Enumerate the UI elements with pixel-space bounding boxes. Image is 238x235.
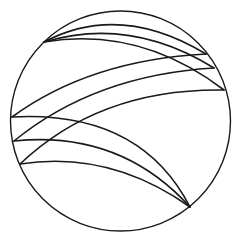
curve-l3-r3 [20,90,224,164]
curve-group [12,25,224,207]
curve-l3-b [20,161,190,207]
curve-a-r3 [44,39,224,90]
circle-chord-diagram [0,0,238,235]
curve-l2-r2 [14,68,214,141]
outer-circle [11,11,231,231]
